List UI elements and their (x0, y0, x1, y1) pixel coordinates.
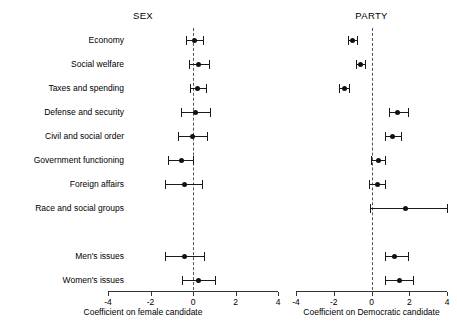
confidence-interval-cap (408, 252, 409, 261)
confidence-interval-cap (385, 276, 386, 285)
estimate-point (192, 38, 197, 43)
estimate-point (403, 206, 408, 211)
panel-sex-title: SEX (0, 10, 286, 21)
x-axis-tick (334, 292, 335, 296)
estimate-point (195, 86, 200, 91)
confidence-interval-cap (349, 84, 350, 93)
confidence-interval-cap (165, 180, 166, 189)
confidence-interval-cap (210, 108, 211, 117)
confidence-interval-cap (401, 132, 402, 141)
confidence-interval-cap (385, 180, 386, 189)
confidence-interval-cap (413, 276, 414, 285)
confidence-interval-cap (339, 84, 340, 93)
confidence-interval-cap (365, 60, 366, 69)
confidence-interval-cap (357, 36, 358, 45)
confidence-interval-cap (207, 132, 208, 141)
x-axis-tick (372, 292, 373, 296)
panel-sex-plot-area (0, 28, 286, 290)
x-axis-tick (108, 292, 109, 296)
confidence-interval-cap (204, 252, 205, 261)
estimate-point (376, 158, 381, 163)
confidence-interval-cap (168, 156, 169, 165)
confidence-interval-cap (189, 60, 190, 69)
estimate-point (358, 62, 363, 67)
confidence-interval-cap (370, 204, 371, 213)
x-axis-tick-label: 4 (445, 297, 450, 307)
confidence-interval-cap (408, 108, 409, 117)
estimate-point (390, 134, 395, 139)
x-axis-tick-label: 0 (191, 297, 196, 307)
panel-sex-x-axis-title: Coefficient on female candidate (0, 307, 286, 317)
x-axis-tick (278, 292, 279, 296)
estimate-point (395, 110, 400, 115)
confidence-interval-cap (182, 276, 183, 285)
x-axis-tick-label: 2 (233, 297, 238, 307)
x-axis-tick-label: 0 (369, 297, 374, 307)
panel-party-title: PARTY (286, 10, 457, 21)
panel-party: PARTY -4-2024 Coefficient on Democratic … (286, 0, 457, 332)
estimate-point (179, 158, 184, 163)
confidence-interval-cap (181, 108, 182, 117)
confidence-interval-cap (206, 84, 207, 93)
estimate-point (196, 278, 201, 283)
confidence-interval-cap (385, 252, 386, 261)
confidence-interval-cap (193, 156, 194, 165)
x-axis-tick (151, 292, 152, 296)
x-axis-tick-label: 4 (276, 297, 281, 307)
x-axis-tick (447, 292, 448, 296)
confidence-interval-cap (356, 60, 357, 69)
x-axis-tick-label: -4 (104, 297, 112, 307)
panel-party-x-axis-title: Coefficient on Democratic candidate (286, 307, 457, 317)
panel-party-plot-area (286, 28, 457, 290)
estimate-point (182, 182, 187, 187)
confidence-interval-cap (165, 252, 166, 261)
x-axis-tick-label: 2 (407, 297, 412, 307)
confidence-interval-cap (215, 276, 216, 285)
x-axis-tick (193, 292, 194, 296)
panel-sex-x-axis: -4-2024 (108, 291, 278, 292)
panel-party-x-axis: -4-2024 (296, 291, 447, 292)
confidence-interval-cap (190, 84, 191, 93)
estimate-point (190, 134, 195, 139)
x-axis-tick-label: -4 (292, 297, 300, 307)
estimate-point (350, 38, 355, 43)
confidence-interval-cap (186, 36, 187, 45)
confidence-interval-cap (389, 108, 390, 117)
panel-sex: SEX -4-2024 Coefficient on female candid… (0, 0, 286, 332)
confidence-interval-cap (203, 36, 204, 45)
confidence-interval-cap (385, 132, 386, 141)
estimate-point (193, 110, 198, 115)
x-axis-tick (236, 292, 237, 296)
estimate-point (196, 62, 201, 67)
confidence-interval-cap (371, 156, 372, 165)
estimate-point (392, 254, 397, 259)
confidence-interval-bar (370, 208, 447, 209)
estimate-point (182, 254, 187, 259)
confidence-interval-cap (178, 132, 179, 141)
estimate-point (342, 86, 347, 91)
confidence-interval-cap (369, 180, 370, 189)
x-axis-tick-label: -2 (147, 297, 155, 307)
coefficient-plot-figure: EconomySocial welfareTaxes and spendingD… (0, 0, 457, 332)
x-axis-tick (409, 292, 410, 296)
confidence-interval-cap (447, 204, 448, 213)
confidence-interval-cap (202, 180, 203, 189)
x-axis-tick-label: -2 (330, 297, 338, 307)
confidence-interval-cap (385, 156, 386, 165)
x-axis-tick (296, 292, 297, 296)
estimate-point (375, 182, 380, 187)
confidence-interval-cap (209, 60, 210, 69)
estimate-point (397, 278, 402, 283)
